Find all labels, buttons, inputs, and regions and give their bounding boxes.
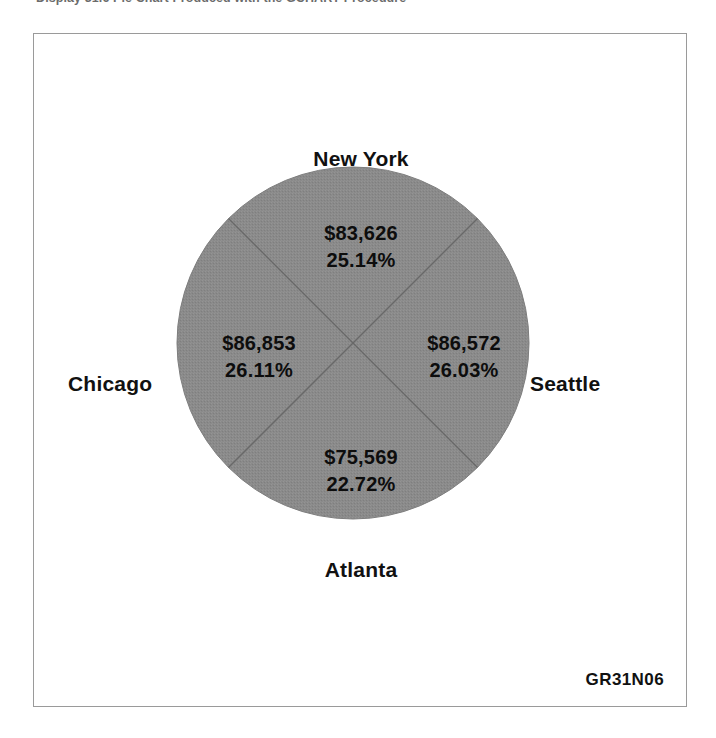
pie-slice-percent-chicago: 26.11% (179, 357, 339, 384)
pie-slice-percent-new-york: 25.14% (281, 247, 441, 274)
pie-slice-labels-atlanta: $75,569 22.72% (281, 444, 441, 498)
pie-slice-value-seattle: $86,572 (384, 330, 544, 357)
pie-slice-labels-chicago: $86,853 26.11% (179, 330, 339, 384)
figure-frame: New York Chicago Seattle Atlanta $83,626… (33, 33, 687, 707)
pie-slice-value-atlanta: $75,569 (281, 444, 441, 471)
pie-slice-value-chicago: $86,853 (179, 330, 339, 357)
pie-category-label-chicago: Chicago (68, 372, 152, 396)
display-caption: Display 31.6 Pie Chart Produced with the… (36, 0, 676, 7)
pie-slice-value-new-york: $83,626 (281, 220, 441, 247)
pie-category-label-atlanta: Atlanta (34, 558, 688, 582)
pie-slice-labels-seattle: $86,572 26.03% (384, 330, 544, 384)
pie-category-label-new-york: New York (34, 147, 688, 171)
pie-slice-labels-new-york: $83,626 25.14% (281, 220, 441, 274)
pie-slice-percent-atlanta: 22.72% (281, 471, 441, 498)
pie-slice-percent-seattle: 26.03% (384, 357, 544, 384)
figure-reference-code: GR31N06 (586, 670, 664, 690)
pie-chart-graphic (34, 34, 688, 708)
pie-chart-plot: New York Chicago Seattle Atlanta $83,626… (34, 34, 688, 708)
